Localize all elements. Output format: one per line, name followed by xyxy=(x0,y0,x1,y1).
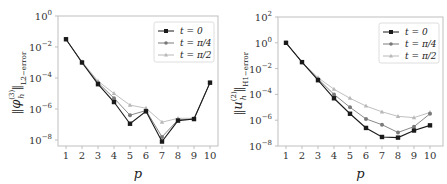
x-tick-label: 8 xyxy=(395,150,401,161)
triangle-marker xyxy=(128,103,132,107)
circle-marker xyxy=(389,42,393,46)
square-marker xyxy=(380,135,384,139)
circle-marker xyxy=(164,41,168,45)
y-axis-label: ‖φ(3)h‖L2−error xyxy=(8,51,28,114)
legend: t = 0t = π/4t = π/2 xyxy=(154,22,214,62)
square-marker xyxy=(389,30,393,34)
y-tick-label: 10−8 xyxy=(249,139,272,152)
x-tick-label: 9 xyxy=(191,150,197,161)
triangle-marker xyxy=(332,87,336,91)
x-tick-label: 1 xyxy=(63,150,69,161)
x-axis-label: p xyxy=(356,166,365,181)
legend-label: t = π/4 xyxy=(405,39,437,49)
square-marker xyxy=(300,60,304,64)
square-marker xyxy=(412,128,416,132)
circle-marker xyxy=(332,92,336,96)
y-tick-label: 10−4 xyxy=(29,71,53,84)
x-axis-label: p xyxy=(134,166,143,181)
square-marker xyxy=(208,80,212,84)
x-tick-label: 1 xyxy=(283,150,289,161)
square-marker xyxy=(284,41,288,45)
y-tick-label: 100 xyxy=(255,36,272,49)
y-axis-label: ‖u(2)h‖H1−error xyxy=(230,51,250,115)
legend-label: t = π/2 xyxy=(405,51,437,61)
square-marker xyxy=(364,126,368,130)
x-tick-label: 4 xyxy=(111,150,117,161)
y-tick-label: 10−4 xyxy=(249,87,273,100)
legend-label: t = π/4 xyxy=(180,38,212,48)
square-marker xyxy=(348,112,352,116)
circle-marker xyxy=(128,113,132,117)
square-marker xyxy=(96,82,100,86)
square-marker xyxy=(332,96,336,100)
y-tick-label: 10−8 xyxy=(29,133,52,146)
x-tick-label: 2 xyxy=(299,150,305,161)
x-tick-label: 6 xyxy=(363,150,369,161)
circle-marker xyxy=(380,123,384,127)
square-marker xyxy=(112,100,116,104)
square-marker xyxy=(316,78,320,82)
x-tick-label: 7 xyxy=(159,150,165,161)
legend: t = 0t = π/4t = π/2 xyxy=(379,23,439,63)
y-tick-label: 10−2 xyxy=(29,40,52,53)
square-marker xyxy=(428,123,432,127)
x-tick-label: 2 xyxy=(79,150,85,161)
y-tick-label: 10−6 xyxy=(29,102,53,115)
y-tick-label: 100 xyxy=(35,9,52,22)
square-marker xyxy=(144,109,148,113)
circle-marker xyxy=(112,96,116,100)
x-tick-label: 3 xyxy=(95,150,101,161)
x-tick-label: 5 xyxy=(347,150,353,161)
legend-label: t = π/2 xyxy=(180,50,212,60)
circle-marker xyxy=(364,117,368,121)
chart-1: 10010−210−410−610−812345678910p‖φ(3)h‖L2… xyxy=(8,9,218,181)
circle-marker xyxy=(396,130,400,134)
x-tick-label: 6 xyxy=(143,150,149,161)
y-tick-label: 102 xyxy=(255,10,272,23)
legend-label: t = 0 xyxy=(180,26,203,36)
x-tick-label: 10 xyxy=(204,150,217,161)
figure: 10010−210−410−610−812345678910p‖φ(3)h‖L2… xyxy=(0,0,447,184)
circle-marker xyxy=(428,112,432,116)
square-marker xyxy=(64,37,68,41)
square-marker xyxy=(192,117,196,121)
square-marker xyxy=(160,139,164,143)
x-tick-label: 7 xyxy=(379,150,385,161)
chart-2: 10210010−210−410−610−812345678910p‖u(2)h… xyxy=(230,10,443,181)
y-tick-label: 10−6 xyxy=(249,113,273,126)
square-marker xyxy=(128,122,132,126)
x-tick-label: 9 xyxy=(411,150,417,161)
square-marker xyxy=(176,118,180,122)
x-tick-label: 5 xyxy=(127,150,133,161)
y-tick-label: 10−2 xyxy=(249,62,272,75)
x-tick-label: 3 xyxy=(315,150,321,161)
legend-label: t = 0 xyxy=(405,27,428,37)
circle-marker xyxy=(412,125,416,129)
x-tick-label: 10 xyxy=(424,150,437,161)
x-tick-label: 4 xyxy=(331,150,337,161)
circle-marker xyxy=(348,105,352,109)
square-marker xyxy=(164,29,168,33)
triangle-marker xyxy=(112,91,116,95)
square-marker xyxy=(80,60,84,64)
square-marker xyxy=(396,135,400,139)
x-tick-label: 8 xyxy=(175,150,181,161)
